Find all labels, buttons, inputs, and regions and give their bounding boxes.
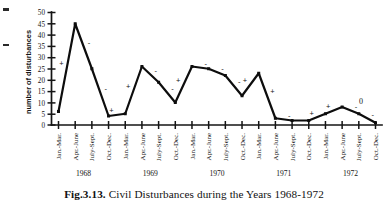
y-tick-label: 20	[38, 77, 46, 85]
y-tick-label: 5	[41, 111, 45, 119]
segment-minus-sign: -	[171, 84, 174, 93]
segment-minus-sign: -	[205, 59, 208, 68]
x-tick-label: July-Sept.	[88, 133, 96, 161]
data-point	[324, 112, 327, 115]
segment-plus-sign: +	[59, 59, 64, 68]
segment-minus-sign: -	[288, 111, 291, 120]
x-tick-label: Apr.-June	[205, 133, 213, 160]
x-tick-label: Oct.-Dec.	[305, 133, 313, 160]
figure-caption: Fig.3.13. Civil Disturbances during the …	[0, 188, 388, 200]
y-tick-label: 0	[41, 122, 45, 130]
y-tick-label: 35	[38, 43, 46, 51]
data-point	[57, 110, 60, 113]
data-point	[90, 67, 93, 70]
figure-caption-text: Civil Disturbances during the Years 1968…	[109, 188, 324, 200]
x-year-label: 1970	[209, 169, 224, 178]
y-tick-label: 45	[38, 21, 46, 29]
x-tick-label: July-Sept.	[289, 133, 297, 161]
data-point	[157, 81, 160, 84]
y-tick-label: 10	[38, 100, 46, 108]
x-year-label: 1972	[343, 169, 358, 178]
data-point	[291, 119, 294, 122]
y-tick-label: 15	[38, 88, 46, 96]
segment-minus-sign: -	[104, 84, 107, 93]
x-tick-label: Oct.-Dec.	[105, 133, 113, 160]
segment-plus-sign: +	[126, 82, 131, 91]
x-tick-label: Oct.-Dec.	[372, 133, 380, 160]
data-point	[124, 112, 127, 115]
y-tick-label: 30	[38, 54, 46, 62]
segment-minus-sign: -	[88, 38, 91, 47]
data-point	[190, 65, 193, 68]
x-tick-label: Jan.-Mar.	[322, 133, 330, 160]
y-tick-label: 50	[38, 9, 46, 17]
x-tick-label: Apr.-June	[272, 133, 280, 160]
segment-minus-sign: -	[155, 66, 158, 75]
segment-plus-sign: +	[326, 102, 331, 111]
x-tick-label: July-Sept.	[155, 133, 163, 161]
data-point	[374, 121, 377, 124]
y-axis-tick-labels: 50 45 40 35 30 25 20 15 10 5 0	[38, 9, 46, 130]
segment-minus-sign: -	[371, 110, 374, 119]
data-point	[307, 119, 310, 122]
data-point	[357, 112, 360, 115]
segment-minus-sign: -	[238, 77, 241, 86]
x-tick-label: July-Sept.	[355, 133, 363, 161]
x-tick-label: Oct.-Dec.	[172, 133, 180, 160]
x-year-label: 1968	[76, 169, 91, 178]
x-tick-label: July-Sept.	[222, 133, 230, 161]
x-axis-tick-labels: Jan.-Mar.Apr.-JuneJuly-Sept.Oct.-Dec.Jan…	[55, 133, 380, 161]
x-tick-label: Apr.-June	[139, 133, 147, 160]
x-year-label: 1969	[143, 169, 158, 178]
data-point	[74, 22, 77, 25]
civil-disturbances-line-chart: number of disturbances 50 45 40 35 30 25…	[0, 0, 388, 188]
x-tick-label: Apr.-June	[339, 133, 347, 160]
x-tick-label: Apr.-June	[72, 133, 80, 160]
x-year-label: 1971	[276, 169, 291, 178]
data-point	[174, 101, 177, 104]
y-tick-label: 25	[38, 66, 46, 74]
data-point	[241, 94, 244, 97]
x-tick-label: Jan.-Mar.	[122, 133, 130, 160]
segment-minus-sign: -	[355, 102, 358, 111]
figure-number: Fig.3.13.	[64, 188, 106, 200]
data-point	[257, 72, 260, 75]
x-tick-label: Jan.-Mar.	[189, 133, 197, 160]
x-tick-label: Oct.-Dec.	[239, 133, 247, 160]
segment-plus-sign: +	[176, 76, 181, 85]
segment-plus-sign: +	[270, 87, 275, 96]
y-axis-title: number of disturbances	[24, 30, 33, 114]
figure-container: number of disturbances 50 45 40 35 30 25…	[0, 0, 388, 213]
x-tick-label: Jan.-Mar.	[55, 133, 63, 160]
data-point	[341, 106, 344, 109]
x-axis-year-labels: 19681969197019711972	[76, 169, 358, 178]
data-point	[140, 65, 143, 68]
zero-value-annotation: 0	[359, 97, 363, 106]
data-point	[224, 74, 227, 77]
segment-plus-sign: +	[109, 106, 114, 115]
x-tick-label: Jan.-Mar.	[255, 133, 263, 160]
segment-plus-sign: +	[243, 76, 248, 85]
y-tick-label: 40	[38, 32, 46, 40]
data-point	[274, 117, 277, 120]
segment-plus-sign: +	[309, 109, 314, 118]
data-point	[207, 67, 210, 70]
segment-minus-sign: -	[221, 64, 224, 73]
